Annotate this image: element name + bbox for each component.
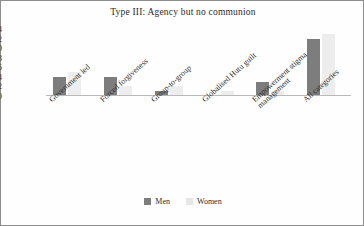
legend-swatch-women-icon bbox=[186, 198, 193, 205]
x-axis-labels: Government ledForced forgivenessGroup-to… bbox=[1, 96, 364, 176]
legend-item-men: Men bbox=[144, 197, 170, 206]
chart-figure: Type III: Agency but no communion 141210… bbox=[0, 0, 364, 226]
y-axis-tick: 2 bbox=[0, 82, 2, 91]
legend-swatch-men-icon bbox=[144, 198, 151, 205]
chart-title: Type III: Agency but no communion bbox=[1, 7, 364, 17]
legend-label: Women bbox=[197, 197, 222, 206]
y-axis-tick: 14 bbox=[0, 25, 2, 34]
y-axis-tick: 8 bbox=[0, 53, 2, 62]
chart-legend: MenWomen bbox=[1, 197, 364, 206]
legend-item-women: Women bbox=[186, 197, 222, 206]
legend-label: Men bbox=[155, 197, 170, 206]
y-axis-tick: 12 bbox=[0, 34, 2, 43]
y-axis-tick: 6 bbox=[0, 63, 2, 72]
y-axis-tick: 10 bbox=[0, 44, 2, 53]
y-axis-tick: 4 bbox=[0, 73, 2, 82]
